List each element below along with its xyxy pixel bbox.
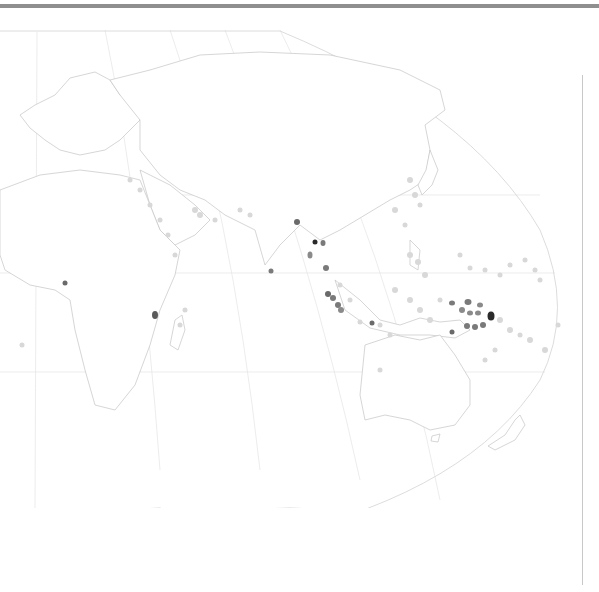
indonesia (335, 280, 470, 338)
tasmania (431, 434, 440, 442)
map-svg (0, 28, 570, 508)
australia (360, 335, 470, 430)
new-zealand (488, 415, 525, 450)
top-divider-bar (0, 4, 599, 8)
world-map[interactable] (0, 28, 570, 508)
madagascar (170, 315, 185, 350)
side-panel (582, 75, 599, 585)
